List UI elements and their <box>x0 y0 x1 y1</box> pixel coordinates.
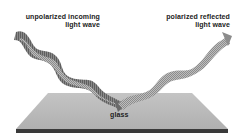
incoming-wave-label: unpolarized incoming light wave <box>14 13 100 29</box>
reflected-label-line2: light wave <box>150 21 230 29</box>
reflected-label-line1: polarized reflected <box>150 13 230 21</box>
reflected-wave-label: polarized reflected light wave <box>150 13 230 29</box>
incoming-label-line1: unpolarized incoming <box>14 13 100 21</box>
polarization-diagram: unpolarized incoming light wave polarize… <box>0 0 244 139</box>
incoming-label-line2: light wave <box>14 21 100 29</box>
glass-label: glass <box>110 111 128 119</box>
